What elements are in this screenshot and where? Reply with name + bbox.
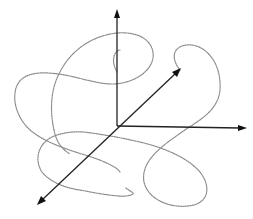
vertical-axis-arrow-icon [114, 9, 120, 18]
axes [37, 9, 247, 205]
coordinate-diagram [0, 0, 253, 219]
horizontal-axis-line [117, 126, 240, 128]
curve-top-loop [15, 33, 153, 172]
diagonal-axis-line [42, 73, 176, 200]
horizontal-axis-arrow-icon [238, 125, 247, 131]
curve-bottom-left-loop [38, 132, 133, 196]
curve-right-big-loop [84, 45, 220, 206]
